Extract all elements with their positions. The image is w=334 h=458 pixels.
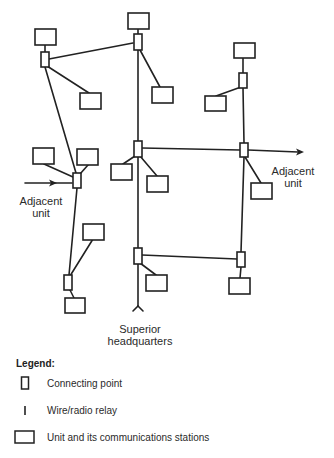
unit-box [83, 224, 104, 240]
superior-headquarters-label: Superior headquarters [100, 323, 180, 347]
unit-box [146, 275, 167, 291]
unit-box [147, 176, 168, 192]
unit-box [33, 148, 54, 164]
unit-box [205, 96, 226, 111]
unit-box-icon [14, 430, 36, 444]
unit-box [229, 278, 250, 294]
adjacent-unit-left-label: Adjacent unit [14, 195, 68, 219]
unit-box [111, 164, 132, 180]
legend-item-relay: Wire/radio relay [14, 403, 117, 417]
connecting-point [240, 143, 248, 157]
connecting-point [134, 34, 142, 50]
connecting-point [134, 141, 142, 157]
connecting-point [134, 248, 142, 264]
unit-box [80, 93, 101, 109]
connecting-point-icon [14, 376, 36, 390]
unit-box [35, 29, 56, 45]
adjacent-unit-right-label: Adjacent unit [266, 165, 320, 189]
legend-item-unit: Unit and its communications stations [14, 430, 209, 444]
unit-box [65, 298, 85, 313]
legend-title: Legend: [16, 358, 55, 369]
unit-box [152, 87, 173, 103]
relay-lines [25, 29, 298, 311]
connecting-point [239, 73, 247, 88]
unit-box [128, 13, 149, 29]
unit-box [77, 149, 98, 165]
legend-item-connecting-point: Connecting point [14, 376, 122, 390]
connecting-point [41, 52, 49, 67]
relay-line-icon [14, 404, 36, 416]
unit-box [234, 43, 255, 58]
connecting-point [73, 173, 81, 188]
connecting-point [237, 252, 245, 267]
connecting-point [64, 275, 72, 290]
